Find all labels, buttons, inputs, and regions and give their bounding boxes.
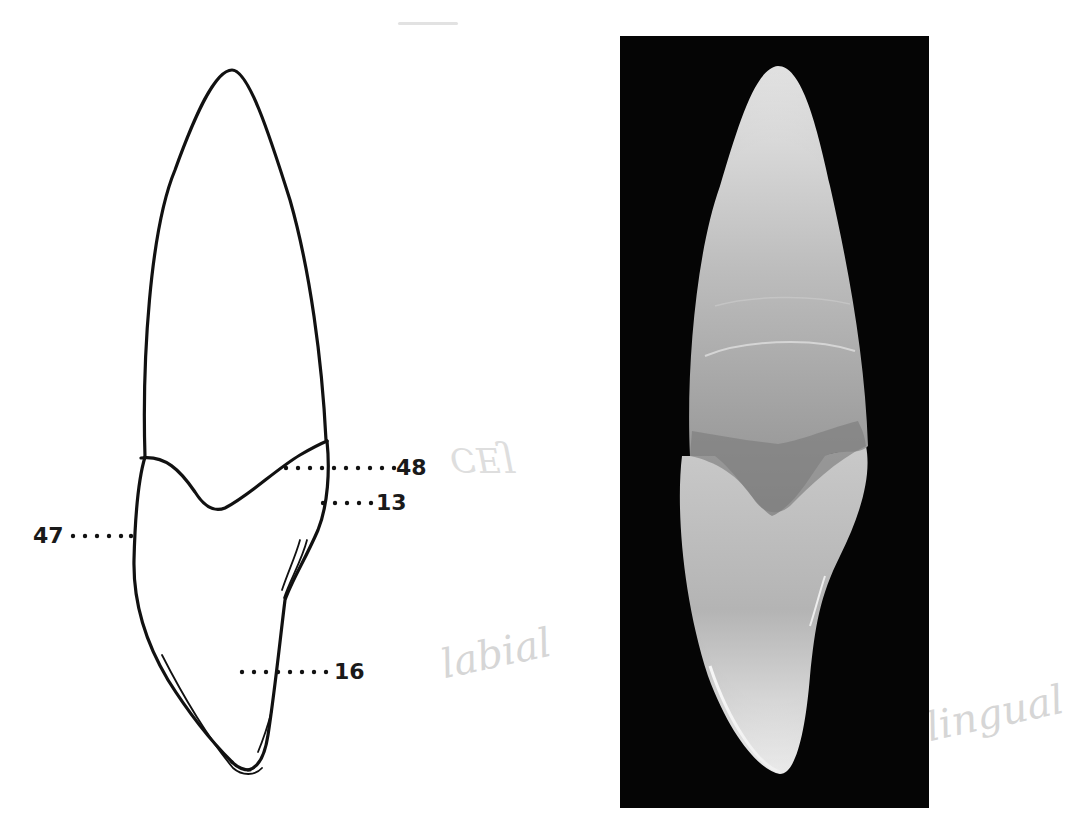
tooth-photo-render [620,36,929,808]
tooth-photograph [620,36,929,808]
crown-outline [144,70,326,457]
cej-line [141,441,327,509]
root-right-outline [248,441,328,770]
label-16: 16 [334,661,365,683]
leader-16 [240,670,328,674]
root-right-double-line [284,540,307,598]
leader-48 [284,466,396,470]
leader-lines [71,466,396,674]
leader-47 [71,534,133,538]
root-left-double-line [162,655,262,774]
root-left-outline [134,457,232,762]
leader-13 [321,501,373,505]
label-47: 47 [33,525,64,547]
label-48: 48 [396,457,427,479]
label-13: 13 [376,492,407,514]
